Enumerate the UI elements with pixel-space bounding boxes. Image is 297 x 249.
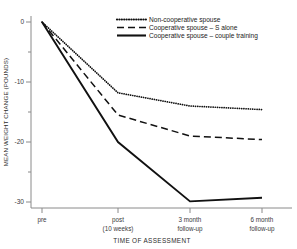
y-tick-label-1: -10 xyxy=(15,78,25,85)
y-tick-label-2: -20 xyxy=(15,138,25,145)
legend-label-cooperative-spouse-couple-training: Cooperative spouse – couple training xyxy=(149,32,258,40)
chart-legend: Non-cooperative spouse Cooperative spous… xyxy=(117,16,258,40)
x-axis-title: TIME OF ASSESSMENT xyxy=(113,237,190,244)
y-tick-label-3: -30 xyxy=(15,198,25,205)
x-tick-label-6month: 6 month xyxy=(251,216,274,223)
line-chart: 0 -10 -20 -30 pre post (10 weeks) 3 mont… xyxy=(0,0,297,249)
legend-label-non-cooperative-spouse: Non-cooperative spouse xyxy=(149,16,221,24)
x-tick-label-post: post xyxy=(112,216,124,224)
chart-figure: 0 -10 -20 -30 pre post (10 weeks) 3 mont… xyxy=(0,0,297,249)
x-tick-label-3month: 3 month xyxy=(179,216,202,223)
x-axis-ticks xyxy=(42,208,262,213)
legend-label-cooperative-spouse-s-alone: Cooperative spouse – S alone xyxy=(149,24,238,32)
x-tick-label-pre: pre xyxy=(37,216,47,224)
y-axis-ticks xyxy=(26,22,31,202)
y-axis-title: MEAN WEIGHT CHANGE (POUNDS) xyxy=(2,58,9,167)
series-cooperative-spouse-s-alone xyxy=(42,22,262,140)
y-tick-label-0: 0 xyxy=(20,18,24,25)
x-tick-label-3month-sub: follow-up xyxy=(177,225,203,233)
x-tick-label-6month-sub: follow-up xyxy=(249,225,275,233)
x-tick-label-post-sub: (10 weeks) xyxy=(103,225,134,233)
series-cooperative-spouse-couple-training xyxy=(42,22,262,201)
